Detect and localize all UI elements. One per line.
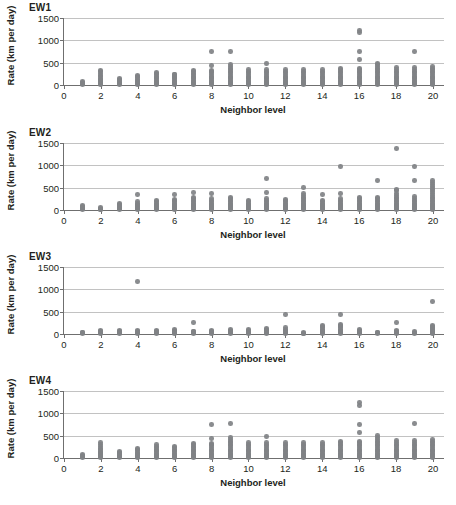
panel-title: EW3 <box>29 251 51 262</box>
y-tick-mark <box>60 143 64 144</box>
x-tick-label: 20 <box>428 463 439 474</box>
data-point <box>320 67 325 72</box>
y-tick-mark <box>60 413 64 414</box>
data-point <box>394 328 399 333</box>
y-tick-mark <box>60 40 64 41</box>
y-tick-label: 500 <box>43 182 59 193</box>
x-tick-label: 2 <box>98 90 103 101</box>
x-tick-label: 18 <box>391 339 402 350</box>
x-tick-label: 16 <box>354 215 365 226</box>
data-point <box>394 65 399 70</box>
y-tick-mark <box>60 267 64 268</box>
x-tick-label: 4 <box>135 215 140 226</box>
data-point <box>98 328 103 333</box>
y-tick-label: 1500 <box>38 262 59 273</box>
y-tick-mark <box>60 312 64 313</box>
data-point <box>320 192 325 197</box>
data-point <box>283 197 288 202</box>
panel-ew4: EW4Rate (km per day)05001000150002468101… <box>0 373 456 499</box>
data-point <box>338 439 343 444</box>
x-tick-label: 14 <box>317 215 328 226</box>
y-tick-mark <box>60 63 64 64</box>
x-tick-label: 10 <box>243 463 254 474</box>
data-point <box>394 320 399 325</box>
x-tick-label: 12 <box>280 339 291 350</box>
data-point <box>172 192 177 197</box>
data-point <box>357 66 362 71</box>
y-gridline <box>64 143 444 144</box>
panel-ew2: EW2Rate (km per day)05001000150002468101… <box>0 125 456 251</box>
plot-area: 05001000150002468101214161820 <box>63 18 444 86</box>
data-point <box>264 176 269 181</box>
y-tick-label: 1000 <box>38 160 59 171</box>
y-gridline <box>64 188 444 189</box>
panel-title: EW4 <box>29 375 51 386</box>
data-point <box>338 164 343 169</box>
data-point <box>172 72 177 77</box>
data-point <box>228 49 233 54</box>
x-tick-label: 0 <box>61 339 66 350</box>
y-tick-mark <box>60 188 64 189</box>
y-gridline <box>64 18 444 19</box>
data-point <box>228 435 233 440</box>
y-tick-label: 1500 <box>38 13 59 24</box>
x-tick-mark <box>64 458 65 462</box>
data-point <box>412 194 417 199</box>
y-tick-label: 500 <box>43 306 59 317</box>
y-tick-mark <box>60 18 64 19</box>
x-axis-label: Neighbor level <box>63 104 443 115</box>
x-tick-label: 0 <box>61 215 66 226</box>
data-point <box>191 320 196 325</box>
data-point <box>209 49 214 54</box>
data-point <box>357 327 362 332</box>
x-tick-label: 8 <box>209 215 214 226</box>
y-axis-label: Rate (km per day) <box>5 252 16 338</box>
data-point <box>246 327 251 332</box>
data-point <box>357 422 362 427</box>
x-tick-label: 14 <box>317 463 328 474</box>
data-point <box>117 201 122 206</box>
data-point <box>209 436 214 441</box>
data-point <box>135 328 140 333</box>
panel-ew3: EW3Rate (km per day)05001000150002468101… <box>0 249 456 375</box>
data-point <box>209 441 214 446</box>
y-tick-label: 0 <box>54 329 59 340</box>
data-point <box>320 198 325 203</box>
data-point <box>357 439 362 444</box>
x-tick-label: 8 <box>209 90 214 101</box>
x-tick-label: 2 <box>98 215 103 226</box>
x-tick-label: 4 <box>135 90 140 101</box>
data-point <box>154 328 159 333</box>
y-gridline <box>64 413 444 414</box>
data-point <box>117 328 122 333</box>
data-point <box>264 434 269 439</box>
data-point <box>357 28 362 33</box>
y-tick-label: 500 <box>43 57 59 68</box>
data-point <box>375 178 380 183</box>
data-point <box>357 400 362 405</box>
plot-area: 05001000150002468101214161820 <box>63 267 444 335</box>
y-tick-mark <box>60 436 64 437</box>
data-point <box>80 330 85 335</box>
x-tick-label: 4 <box>135 339 140 350</box>
x-tick-label: 12 <box>280 463 291 474</box>
x-tick-label: 6 <box>172 463 177 474</box>
x-axis-label: Neighbor level <box>63 229 443 240</box>
x-tick-label: 2 <box>98 339 103 350</box>
data-point <box>320 440 325 445</box>
x-tick-label: 14 <box>317 90 328 101</box>
plot-area: 05001000150002468101214161820 <box>63 143 444 211</box>
y-tick-mark <box>60 391 64 392</box>
x-tick-label: 18 <box>391 90 402 101</box>
data-point <box>375 195 380 200</box>
scatter-figure: EW1Rate (km per day)05001000150002468101… <box>0 0 456 505</box>
data-point <box>394 146 399 151</box>
x-tick-label: 18 <box>391 215 402 226</box>
x-tick-label: 12 <box>280 90 291 101</box>
y-gridline <box>64 391 444 392</box>
data-point <box>228 327 233 332</box>
data-point <box>117 76 122 81</box>
data-point <box>80 203 85 208</box>
y-gridline <box>64 312 444 313</box>
data-point <box>228 195 233 200</box>
